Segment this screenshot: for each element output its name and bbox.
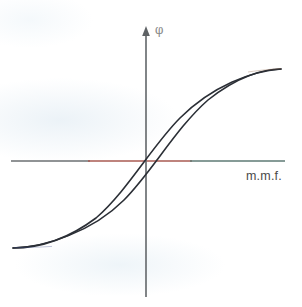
mmf-axis-label: m.m.f. [246,170,282,183]
plot-canvas [0,0,302,307]
up-arrowhead-icon [142,26,150,36]
flux-axis-label: φ [155,24,163,36]
hysteresis-loop [13,69,281,248]
hysteresis-figure: φ m.m.f. [0,0,302,307]
descending-branch [13,69,281,248]
